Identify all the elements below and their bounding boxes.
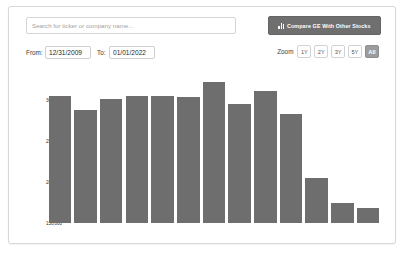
plot-region: 150,000200,000250,000300,000: [47, 75, 381, 223]
app-root: Compare GE With Other Stocks From: To: Z…: [0, 0, 406, 254]
bar[interactable]: [151, 96, 174, 223]
bar[interactable]: [280, 114, 303, 223]
zoom-group: Zoom 1Y 2Y 3Y 5Y All: [277, 45, 379, 58]
bar[interactable]: [331, 203, 354, 223]
from-date-input[interactable]: [45, 46, 91, 59]
stock-chart-card: Compare GE With Other Stocks From: To: Z…: [8, 6, 396, 244]
from-label: From:: [26, 49, 43, 56]
zoom-button-2y[interactable]: 2Y: [314, 45, 328, 58]
to-date-input[interactable]: [109, 46, 155, 59]
bar[interactable]: [74, 110, 97, 223]
search-input[interactable]: [26, 17, 236, 34]
compare-stocks-button-label: Compare GE With Other Stocks: [287, 23, 371, 29]
bar[interactable]: [49, 96, 72, 223]
compare-stocks-button[interactable]: Compare GE With Other Stocks: [268, 16, 381, 35]
controls-row: From: To: Zoom 1Y 2Y 3Y 5Y All: [9, 43, 395, 65]
bar[interactable]: [100, 99, 123, 223]
bar[interactable]: [126, 96, 149, 223]
zoom-button-all[interactable]: All: [365, 45, 379, 58]
zoom-button-3y[interactable]: 3Y: [331, 45, 345, 58]
bar[interactable]: [203, 82, 226, 223]
to-label: To:: [97, 49, 106, 56]
bar-chart-icon: [278, 23, 283, 29]
bar[interactable]: [254, 91, 277, 223]
zoom-button-1y[interactable]: 1Y: [297, 45, 311, 58]
bar[interactable]: [357, 208, 380, 223]
bar-series: [47, 75, 381, 223]
bar[interactable]: [228, 104, 251, 223]
bar[interactable]: [177, 97, 200, 223]
bar[interactable]: [305, 178, 328, 223]
zoom-button-5y[interactable]: 5Y: [348, 45, 362, 58]
zoom-label: Zoom: [277, 48, 293, 55]
chart-area: Number of Employees 150,000200,000250,00…: [9, 65, 395, 245]
search-row: Compare GE With Other Stocks: [9, 7, 395, 43]
